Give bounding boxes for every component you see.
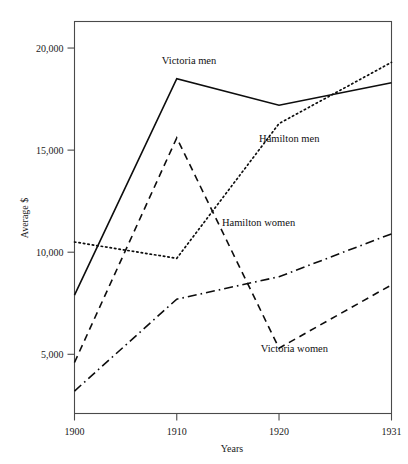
series-label-victoria-men: Victoria men xyxy=(162,55,217,66)
line-chart-canvas: 5,00010,00015,00020,000 1900191019201931… xyxy=(0,0,408,464)
series-label-victoria-women: Victoria women xyxy=(261,343,329,354)
y-tick-label: 20,000 xyxy=(36,43,64,54)
x-tick-label: 1910 xyxy=(167,426,187,437)
y-tick-label: 10,000 xyxy=(36,247,64,258)
series-label-hamilton-men: Hamilton men xyxy=(259,133,320,144)
y-axis-title: Average $ xyxy=(19,198,30,239)
x-axis-title: Years xyxy=(221,443,243,454)
chart-background xyxy=(0,0,408,464)
series-label-hamilton-women: Hamilton women xyxy=(222,217,296,228)
x-tick-label: 1900 xyxy=(65,426,85,437)
x-tick-label: 1920 xyxy=(269,426,289,437)
y-tick-label: 15,000 xyxy=(36,145,64,156)
chart-figure: 5,00010,00015,00020,000 1900191019201931… xyxy=(0,0,408,464)
y-tick-label: 5,000 xyxy=(41,349,64,360)
x-tick-label: 1931 xyxy=(382,426,402,437)
